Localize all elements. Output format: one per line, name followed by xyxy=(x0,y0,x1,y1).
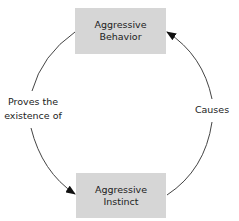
node-label-line: Instinct xyxy=(103,196,138,208)
edge-causes-lower xyxy=(167,122,212,195)
node-label-line: Aggressive xyxy=(95,184,147,196)
edge-label-line: Causes xyxy=(188,103,236,117)
node-label-line: Behavior xyxy=(99,31,141,43)
edge-proves-existence-lower xyxy=(31,128,75,194)
edge-label-proves-existence: Proves the existence of xyxy=(0,95,66,123)
edge-label-line: existence of xyxy=(0,109,66,123)
edge-label-causes: Causes xyxy=(188,103,236,117)
edge-proves-existence-upper xyxy=(32,32,75,91)
edge-label-line: Proves the xyxy=(0,95,66,109)
node-aggressive-behavior: Aggressive Behavior xyxy=(75,8,166,54)
node-aggressive-instinct: Aggressive Instinct xyxy=(76,173,166,218)
node-label-line: Aggressive xyxy=(94,19,146,31)
cycle-diagram: Aggressive Behavior Aggressive Instinct … xyxy=(0,0,239,221)
edge-causes-upper xyxy=(167,32,212,99)
